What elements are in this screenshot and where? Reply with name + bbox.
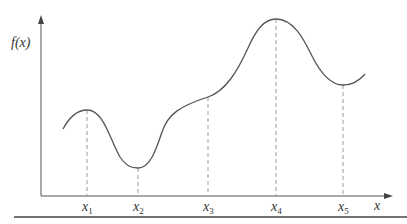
point-label-x4: x4: [270, 199, 282, 216]
x-axis-arrow-icon: [384, 193, 393, 199]
point-label-x1: x1: [81, 199, 93, 216]
y-axis-arrow-icon: [38, 15, 44, 24]
point-label-x5: x5: [337, 199, 349, 216]
y-axis-label: f(x): [11, 35, 31, 51]
point-label-x3: x3: [202, 199, 214, 216]
function-diagram: f(x) x x1 x2 x3 x4 x5: [0, 0, 407, 224]
function-curve: [63, 19, 365, 168]
x-axis-label: x: [373, 198, 381, 213]
point-label-x2: x2: [132, 199, 144, 216]
